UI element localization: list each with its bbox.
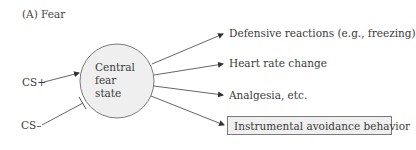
output-label-instrumental-avoidance: Instrumental avoidance behavior — [234, 121, 410, 132]
output-label-defensive-reactions: Defensive reactions (e.g., freezing) — [229, 28, 416, 39]
arrow-to-analgesia — [154, 86, 223, 95]
cs-plus-arrow — [44, 73, 79, 82]
central-node-line-2: fear — [95, 74, 155, 87]
arrow-to-heart-rate-change — [154, 64, 223, 75]
central-node-line-3: state — [95, 87, 155, 100]
central-node-line-1: Central — [95, 61, 155, 74]
central-node-label: Central fear state — [95, 61, 155, 100]
cs-minus-inhibitory-line — [42, 103, 83, 125]
input-label-cs-plus: CS+ — [22, 77, 46, 88]
figure-title: (A) Fear — [22, 9, 65, 20]
arrow-to-instrumental-avoidance — [151, 96, 224, 125]
input-label-cs-minus: CS– — [21, 120, 41, 131]
output-label-analgesia: Analgesia, etc. — [229, 90, 307, 101]
output-label-heart-rate-change: Heart rate change — [229, 58, 327, 69]
arrow-to-defensive-reactions — [152, 34, 223, 64]
